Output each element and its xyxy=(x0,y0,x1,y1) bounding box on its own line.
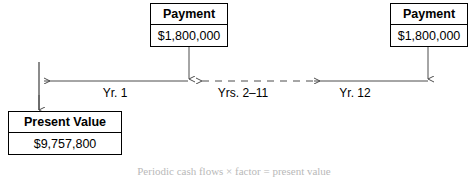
payment-box-left-header: Payment xyxy=(151,4,227,25)
timeline-label-yr-12: Yr. 12 xyxy=(315,86,395,100)
timeline-label-yrs-2-11: Yrs. 2–11 xyxy=(200,86,286,100)
payment-box-right: Payment $1,800,000 xyxy=(390,3,468,47)
present-value-box-header: Present Value xyxy=(9,112,121,133)
diagram-caption: Periodic cash flows × factor = present v… xyxy=(0,165,468,177)
payment-box-left: Payment $1,800,000 xyxy=(150,3,228,47)
cash-flow-timeline-diagram: Payment $1,800,000 Payment $1,800,000 Pr… xyxy=(0,0,468,178)
present-value-box: Present Value $9,757,800 xyxy=(8,111,122,155)
present-value-box-value: $9,757,800 xyxy=(9,133,121,155)
payment-box-left-value: $1,800,000 xyxy=(151,25,227,47)
payment-box-right-value: $1,800,000 xyxy=(391,25,467,47)
payment-box-right-header: Payment xyxy=(391,4,467,25)
timeline-label-yr-1: Yr. 1 xyxy=(75,86,155,100)
